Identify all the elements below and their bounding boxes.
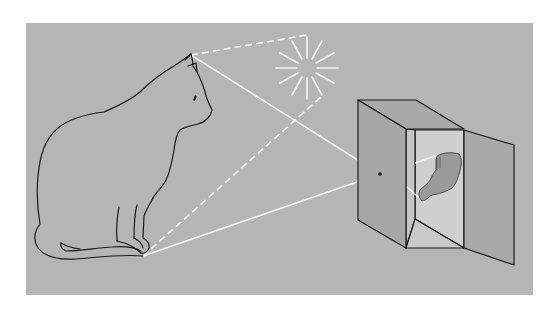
pinhole-aperture: [378, 172, 382, 176]
box-door: [464, 130, 514, 265]
pinhole-camera-diagram: [0, 0, 556, 309]
